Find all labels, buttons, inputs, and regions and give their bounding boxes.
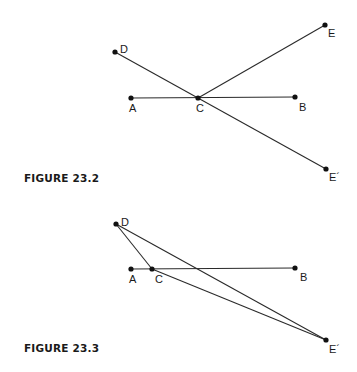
figure-23-2: D A C B E E´ FIGURE 23.2 (24, 22, 340, 184)
geometry-diagram: D A C B E E´ FIGURE 23.2 D A C B E´ FIGU… (0, 0, 357, 372)
point-A (128, 266, 133, 271)
segment-A-B (131, 97, 295, 98)
segment-D-E-prime (116, 224, 326, 340)
segment-D-E-prime (115, 52, 326, 169)
label-D: D (120, 43, 128, 55)
figure-caption: FIGURE 23.3 (24, 342, 99, 354)
label-C: C (196, 102, 204, 114)
label-A: A (129, 102, 137, 114)
label-C: C (155, 273, 163, 285)
label-B: B (299, 101, 306, 113)
point-E-prime (323, 166, 328, 171)
point-D (113, 221, 118, 226)
label-B: B (300, 271, 307, 283)
label-D: D (121, 216, 129, 228)
label-E-prime: E´ (329, 171, 340, 183)
label-E: E (328, 27, 335, 39)
label-E-prime: E´ (329, 343, 340, 355)
figure-23-3: D A C B E´ FIGURE 23.3 (24, 216, 340, 355)
point-C (195, 95, 200, 100)
point-E (322, 22, 327, 27)
point-B (292, 94, 297, 99)
point-C (149, 266, 154, 271)
figure-caption: FIGURE 23.2 (24, 172, 99, 184)
segment-D-C (116, 224, 152, 269)
label-A: A (129, 273, 137, 285)
point-D (112, 49, 117, 54)
segment-C-E (198, 25, 325, 98)
point-A (128, 95, 133, 100)
point-B (292, 265, 297, 270)
point-E-prime (323, 337, 328, 342)
segment-A-B (131, 268, 295, 269)
